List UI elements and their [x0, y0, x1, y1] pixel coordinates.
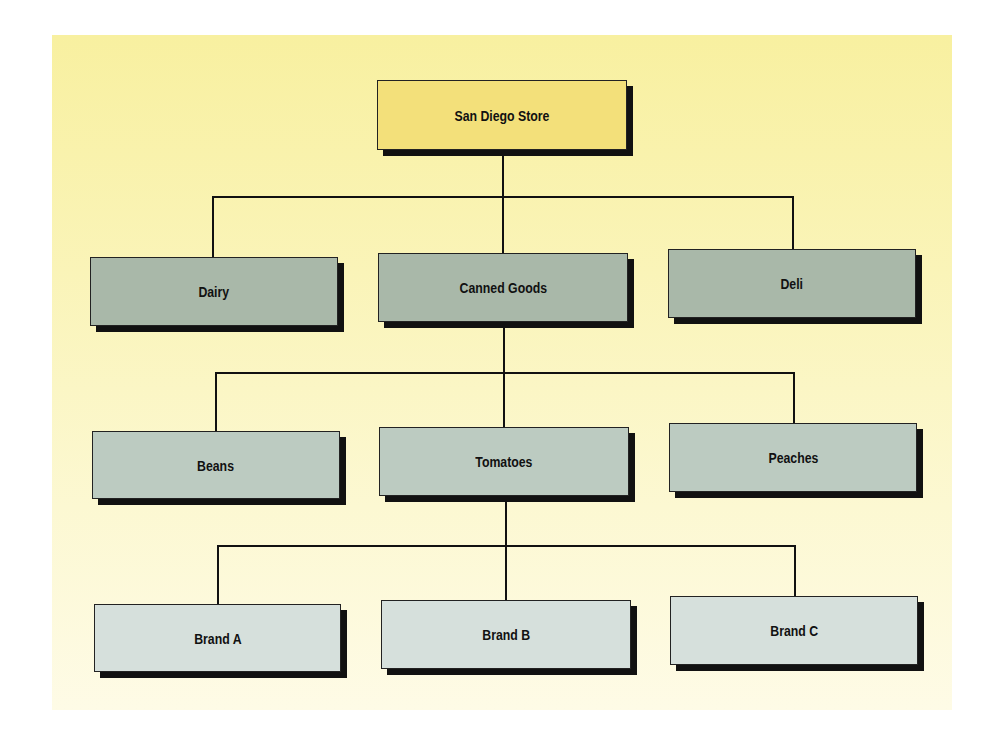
node-label: Brand A [194, 630, 241, 647]
node-label: San Diego Store [454, 107, 549, 124]
connector [794, 545, 796, 597]
node-beans: Beans [92, 431, 340, 499]
node-san-diego-store: San Diego Store [377, 80, 627, 150]
connector [503, 372, 505, 428]
node-dairy: Dairy [90, 257, 338, 326]
node-brand-a: Brand A [94, 604, 341, 672]
connector [505, 496, 507, 546]
connector [502, 150, 504, 197]
connector [502, 196, 504, 254]
connector [792, 196, 794, 250]
node-label: Tomatoes [475, 453, 532, 470]
connector [212, 196, 214, 258]
connector [505, 545, 507, 601]
node-tomatoes: Tomatoes [379, 427, 629, 496]
node-peaches: Peaches [669, 423, 917, 492]
connector [503, 322, 505, 374]
connector [215, 372, 217, 432]
node-label: Dairy [199, 283, 230, 300]
node-label: Deli [781, 275, 804, 292]
node-brand-c: Brand C [670, 596, 918, 665]
node-label: Brand B [482, 626, 530, 643]
node-deli: Deli [668, 249, 916, 318]
connector [793, 372, 795, 424]
connector [215, 372, 795, 374]
node-label: Peaches [768, 449, 818, 466]
node-label: Brand C [770, 622, 818, 639]
node-canned-goods: Canned Goods [378, 253, 628, 322]
node-brand-b: Brand B [381, 600, 631, 669]
node-label: Beans [198, 457, 235, 474]
node-label: Canned Goods [459, 279, 546, 296]
connector [217, 545, 219, 605]
